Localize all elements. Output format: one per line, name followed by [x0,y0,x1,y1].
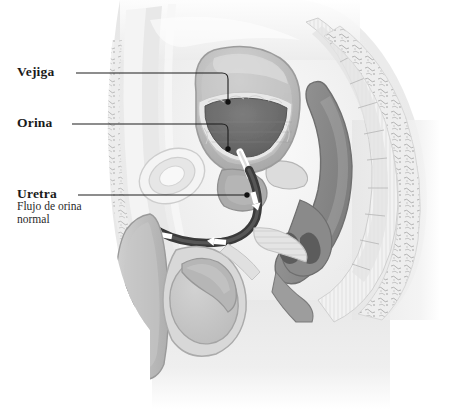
dot-orina [225,146,230,151]
penis [116,214,169,390]
label-uretra-subtitle: Flujo de orina normal [17,200,82,226]
dot-uretra [244,192,249,197]
dot-vejiga [225,99,230,104]
label-uretra-subtitle-line2: normal [17,213,82,226]
illustration-canvas: Vejiga Orina Uretra Flujo de orina norma… [0,0,474,409]
bladder [195,46,300,173]
label-uretra-subtitle-line1: Flujo de orina [17,200,82,213]
label-orina: Orina [17,115,53,131]
label-vejiga: Vejiga [17,64,54,80]
